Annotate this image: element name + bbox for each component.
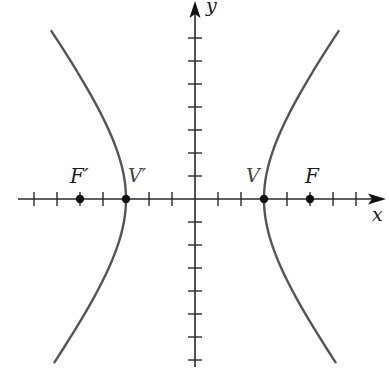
vertex-right-label: V (246, 166, 260, 185)
right-branch (264, 31, 339, 362)
vertex-point-icon (122, 195, 130, 203)
vertex-point-icon (260, 195, 268, 203)
x-axis-label: x (372, 205, 383, 224)
vertex-left-label: V′ (128, 166, 146, 185)
left-branch (51, 31, 126, 362)
hyperbola-diagram (0, 0, 389, 385)
focus-point-icon (76, 195, 84, 203)
y-axis-label: y (206, 0, 217, 15)
focus-point-icon (306, 195, 314, 203)
focus-left-label: F′ (70, 166, 88, 186)
focus-right-label: F (305, 166, 319, 186)
